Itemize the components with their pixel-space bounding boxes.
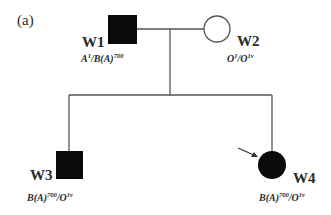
w4-id-label: W4 <box>293 170 316 187</box>
proband-arrow-icon <box>238 148 258 157</box>
w3-affected-male-square <box>56 151 83 179</box>
w1-id-label: W1 <box>82 34 105 51</box>
w4-affected-female-circle <box>258 151 286 179</box>
w1-genotype: A1/B(A)700 <box>81 53 123 64</box>
w3-genotype: B(A)700/O1v <box>27 192 73 203</box>
w2-unaffected-female-circle <box>204 16 230 42</box>
w2-id-label: W2 <box>237 33 260 50</box>
w3-id-label: W3 <box>30 167 53 184</box>
w1-affected-male-square <box>108 15 137 44</box>
panel-label: (a) <box>17 12 34 29</box>
w2-genotype: O1/O1v <box>227 53 254 64</box>
w4-genotype: B(A)700/O1v <box>259 192 305 203</box>
